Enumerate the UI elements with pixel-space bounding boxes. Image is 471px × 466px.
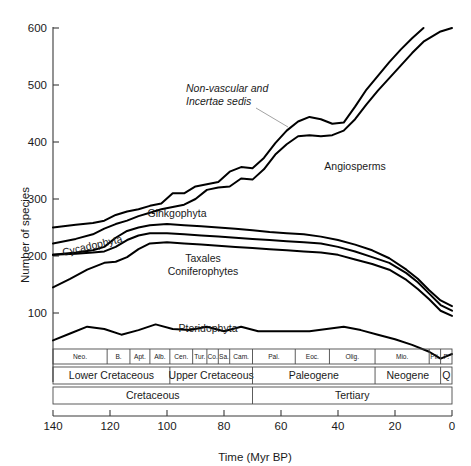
strat-label: Pli.	[430, 353, 439, 360]
series-line	[53, 242, 452, 316]
x-tick-label: 0	[449, 420, 455, 432]
cycadophyta-label: Cycadophyta	[61, 232, 124, 258]
strat-label: Neogene	[387, 369, 430, 381]
y-tick-label: 400	[28, 136, 47, 148]
strat-label: Apt.	[134, 353, 146, 361]
strat-label: Pal.	[268, 353, 280, 360]
strat-label: Q	[442, 369, 450, 381]
pteridophyta-label: Pteridophyta	[179, 322, 238, 334]
strat-label: Lower Cretaceous	[69, 369, 154, 381]
chart-figure: 100200300400500600140120100806040200 Neo…	[0, 0, 471, 466]
strat-label: Paleogene	[289, 369, 339, 381]
x-axis-title: Time (Myr BP)	[218, 451, 292, 463]
strat-label: Upper Cretaceous	[169, 369, 254, 381]
x-tick-label: 60	[275, 420, 288, 432]
y-axis-title: Number of species	[19, 187, 31, 283]
y-tick-label: 500	[28, 79, 47, 91]
strat-label: Sa.	[219, 353, 229, 360]
non-vascular-label: Incertae sedis	[186, 95, 252, 107]
x-tick-label: 140	[43, 420, 62, 432]
x-tick-label: 120	[100, 420, 119, 432]
x-tick-label: 80	[218, 420, 231, 432]
y-tick-label: 600	[28, 22, 47, 34]
strat-label: Co.	[207, 353, 217, 360]
y-tick-label: 100	[28, 307, 47, 319]
stratigraphy-group: Neo.B.Apt.Alb.Cen.Tur.Co.Sa.Cam.Pal.Eoc.…	[53, 349, 452, 404]
ginkgophyta-label: Ginkgophyta	[148, 207, 207, 219]
strat-label: Olig.	[345, 353, 359, 361]
strat-label: Mio.	[396, 353, 409, 360]
chart-svg: 100200300400500600140120100806040200 Neo…	[0, 0, 471, 466]
strat-label: Alb.	[154, 353, 166, 360]
curves-group	[53, 28, 452, 359]
strat-label: Cen.	[174, 353, 188, 360]
x-tick-label: 100	[157, 420, 176, 432]
taxales-label: Taxales	[185, 252, 221, 264]
angiosperms-label: Angiosperms	[324, 160, 385, 172]
curve-labels-group: Non-vascular andIncertae sedisAngiosperm…	[61, 82, 386, 334]
strat-label: Cam.	[233, 353, 249, 360]
x-tick-label: 40	[332, 420, 345, 432]
series-line	[53, 28, 424, 228]
strat-label: Neo.	[73, 353, 87, 360]
non-vascular-label: Non-vascular and	[186, 82, 269, 94]
strat-label: B.	[115, 353, 121, 360]
annotation-leader	[256, 108, 288, 127]
strat-label: P.	[444, 353, 450, 360]
strat-label: Cretaceous	[126, 389, 180, 401]
coniferophytes-label: Coniferophytes	[168, 265, 239, 277]
x-tick-label: 20	[389, 420, 402, 432]
strat-label: Tur.	[194, 353, 205, 360]
strat-label: Eoc.	[306, 353, 319, 360]
strat-label: Tertiary	[335, 389, 370, 401]
